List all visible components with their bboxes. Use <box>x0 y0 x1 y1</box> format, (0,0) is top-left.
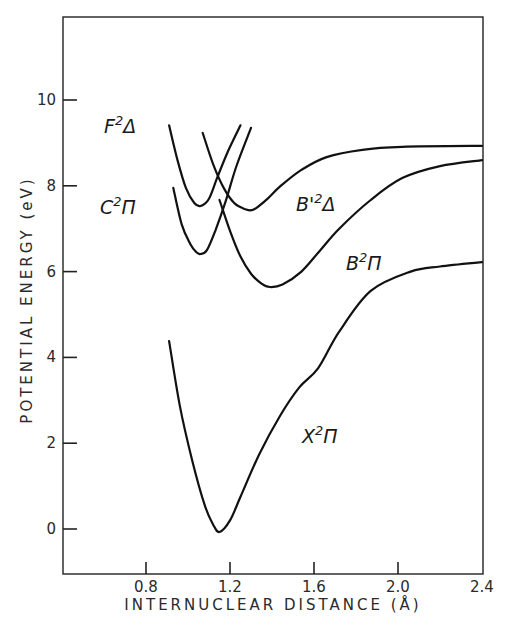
plot-frame <box>63 17 483 574</box>
y-tick-label: 2 <box>46 434 56 452</box>
state-labels: X2ΠC2ΠF2ΔB'2ΔB2Π <box>100 113 382 447</box>
y-axis-ticks: 0246810 <box>37 91 77 538</box>
state-label: B'2Δ <box>296 191 336 215</box>
x-axis-ticks: 0.81.21.62.02.4 <box>134 562 494 596</box>
y-tick-label: 8 <box>46 177 56 195</box>
y-axis-title: POTENTIAL ENERGY (eV) <box>18 176 36 423</box>
x-axis-title: INTERNUCLEAR DISTANCE (Å) <box>124 595 421 614</box>
x-tick-label: 0.8 <box>134 578 158 596</box>
y-tick-label: 10 <box>37 91 56 109</box>
curve-x-pi <box>169 262 482 532</box>
y-tick-label: 4 <box>46 348 56 366</box>
state-label: B2Π <box>346 250 382 274</box>
state-label: C2Π <box>100 194 136 218</box>
x-tick-label: 2.4 <box>470 578 494 596</box>
x-tick-label: 2.0 <box>386 578 410 596</box>
state-label: X2Π <box>301 423 338 447</box>
x-tick-label: 1.6 <box>302 578 326 596</box>
x-tick-label: 1.2 <box>218 578 242 596</box>
y-tick-label: 6 <box>46 263 56 281</box>
potential-energy-chart: 0246810 0.81.21.62.02.4 X2ΠC2ΠF2ΔB'2ΔB2Π… <box>0 0 512 626</box>
potential-curves <box>169 125 482 532</box>
y-tick-label: 0 <box>46 520 56 538</box>
state-label: F2Δ <box>104 113 136 137</box>
